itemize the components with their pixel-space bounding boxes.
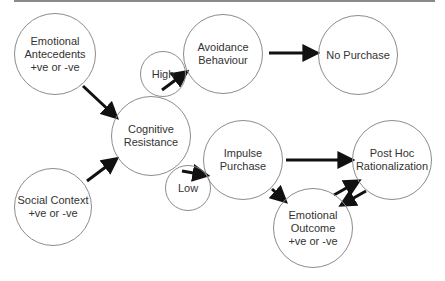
node-emotional-antecedents: Emotional Antecedents +ve or -ve	[14, 13, 96, 95]
node-label: No Purchase	[326, 49, 390, 62]
node-label: High	[152, 68, 175, 81]
arrow-impulse-purchase-to-emotional-outcome	[272, 189, 284, 200]
node-avoidance-behaviour: Avoidance Behaviour	[183, 14, 263, 94]
node-label: Emotional Outcome +ve or -ve	[288, 209, 337, 248]
node-post-hoc-rationalization: Post Hoc Rationalization	[352, 120, 432, 200]
node-label: Impulse Purchase	[220, 147, 266, 173]
node-emotional-outcome: Emotional Outcome +ve or -ve	[273, 188, 353, 268]
node-label: Cognitive Resistance	[124, 123, 178, 149]
node-label: Post Hoc Rationalization	[356, 147, 428, 173]
node-label: Social Context +ve or -ve	[18, 194, 89, 220]
node-label: Avoidance Behaviour	[197, 41, 248, 67]
node-cognitive-resistance: Cognitive Resistance	[111, 96, 191, 176]
node-no-purchase: No Purchase	[318, 15, 398, 95]
node-impulse-purchase: Impulse Purchase	[203, 120, 283, 200]
arrow-social-context-to-cognitive-resistance	[87, 160, 115, 181]
node-high: High	[140, 51, 186, 97]
node-label: Low	[178, 182, 198, 195]
arrow-emotional-outcome-to-post-hoc-rationalization	[334, 182, 357, 195]
arrow-emotional-antecedents-to-cognitive-resistance	[83, 86, 115, 116]
arrow-post-hoc-rationalization-to-emotional-outcome	[343, 191, 366, 204]
node-label: Emotional Antecedents +ve or -ve	[24, 35, 85, 74]
node-social-context: Social Context +ve or -ve	[14, 168, 92, 246]
